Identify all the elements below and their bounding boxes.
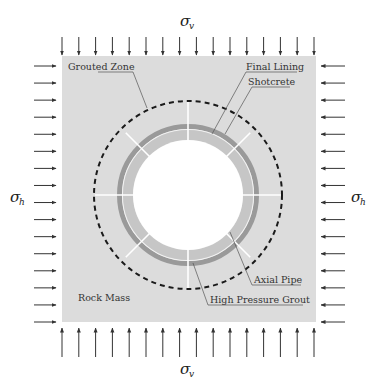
vertical-stress-arrows-top	[62, 37, 314, 55]
shotcrete-label: Shotcrete	[248, 76, 295, 87]
svg-text:h: h	[19, 197, 25, 207]
sigma-h-right: σ h	[351, 188, 366, 207]
svg-text:h: h	[360, 197, 366, 207]
svg-text:v: v	[189, 369, 194, 379]
high-pressure-grout-label: High Pressure Grout	[210, 294, 310, 305]
sigma-v-top: σ v	[180, 12, 194, 31]
horizontal-stress-arrows-right	[321, 66, 345, 322]
sigma-h-left: σ h	[10, 188, 25, 207]
sigma-v-bottom: σ v	[180, 360, 194, 379]
diagram-canvas: Grouted Zone Final Lining Shotcrete Rock…	[0, 0, 377, 387]
axial-pipe-label: Axial Pipe	[253, 274, 302, 285]
final-lining-label: Final Lining	[246, 61, 304, 72]
horizontal-stress-arrows-left	[34, 66, 56, 322]
grouted-zone-label: Grouted Zone	[68, 61, 135, 72]
tunnel-cross-section-diagram: Grouted Zone Final Lining Shotcrete Rock…	[0, 0, 377, 387]
rock-mass-label: Rock Mass	[78, 292, 130, 303]
vertical-stress-arrows-bottom	[62, 328, 314, 357]
svg-text:v: v	[189, 21, 194, 31]
